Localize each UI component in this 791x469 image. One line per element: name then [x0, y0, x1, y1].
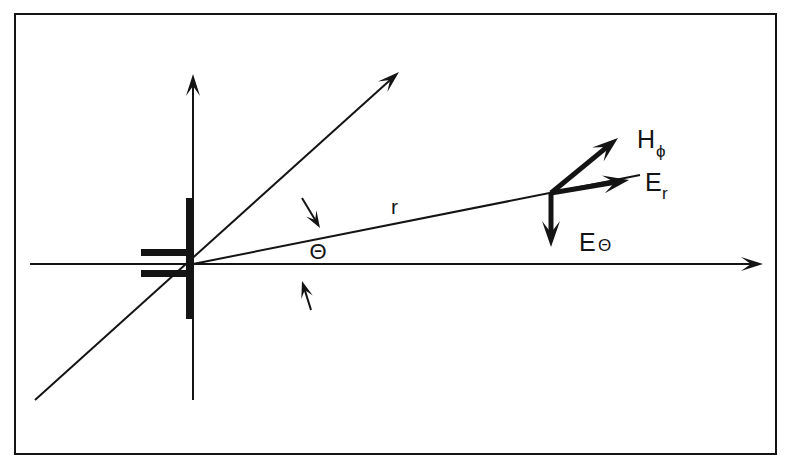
h-phi-vector-label: H — [637, 125, 655, 153]
radius-label: r — [391, 195, 398, 218]
theta-symbol-label: Θ — [309, 239, 326, 264]
antenna-stub-lower — [141, 270, 193, 277]
antenna-vertical-bar — [186, 198, 194, 319]
e-theta-vector-subscript: Θ — [598, 236, 611, 255]
e-r-vector-subscript: r — [662, 184, 668, 203]
antenna-stub-upper — [141, 249, 193, 256]
e-theta-vector-label: E — [579, 228, 596, 256]
h-phi-vector-subscript: ϕ — [656, 142, 666, 161]
e-r-vector-label: E — [645, 168, 662, 196]
figure-root: r Θ HϕErEΘ — [0, 0, 791, 469]
antenna-field-diagram: r Θ HϕErEΘ — [0, 0, 791, 469]
figure-background — [0, 0, 791, 469]
